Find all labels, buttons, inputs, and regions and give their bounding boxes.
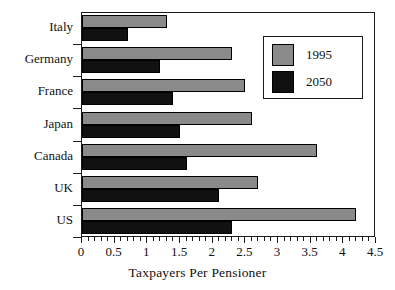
x-axis-major-tick	[81, 237, 82, 243]
x-axis-major-tick	[114, 237, 115, 243]
y-axis-tick	[73, 44, 81, 45]
bar	[82, 189, 219, 202]
bar	[82, 221, 232, 234]
bar	[82, 176, 258, 189]
x-axis-title: Taxpayers Per Pensioner	[0, 265, 395, 281]
x-axis-minor-tick	[101, 237, 102, 241]
bar	[82, 79, 245, 92]
x-axis-minor-tick	[107, 237, 108, 241]
x-axis-tick-label: 2	[208, 244, 215, 260]
y-axis-tick	[73, 76, 81, 77]
x-axis-minor-tick	[172, 237, 173, 241]
x-axis-minor-tick	[238, 237, 239, 241]
bar	[82, 125, 180, 138]
x-axis-minor-tick	[231, 237, 232, 241]
x-axis-major-tick	[375, 237, 376, 243]
x-axis-major-tick	[310, 237, 311, 243]
x-axis-minor-tick	[225, 237, 226, 241]
x-axis-minor-tick	[329, 237, 330, 241]
x-axis-tick-label: 2.5	[236, 244, 252, 260]
x-axis-minor-tick	[166, 237, 167, 241]
y-axis-label-us: US	[56, 212, 73, 228]
x-axis-tick-label: 1	[143, 244, 150, 260]
x-axis-major-tick	[244, 237, 245, 243]
x-axis-tick-label: 4	[339, 244, 346, 260]
y-axis-label-italy: Italy	[49, 19, 73, 35]
bar	[82, 92, 173, 105]
bar	[82, 208, 356, 221]
x-axis-minor-tick	[349, 237, 350, 241]
x-axis-minor-tick	[362, 237, 363, 241]
y-axis-label-japan: Japan	[43, 116, 73, 132]
x-axis-minor-tick	[251, 237, 252, 241]
bar	[82, 60, 160, 73]
legend: 19952050	[263, 36, 363, 99]
x-axis-minor-tick	[323, 237, 324, 241]
x-axis-minor-tick	[336, 237, 337, 241]
x-axis-tick-label: 1.5	[171, 244, 187, 260]
y-axis-tick	[73, 108, 81, 109]
bar	[82, 112, 252, 125]
bar	[82, 28, 128, 41]
x-axis-minor-tick	[297, 237, 298, 241]
x-axis-minor-tick	[199, 237, 200, 241]
legend-item-2050: 2050	[272, 70, 332, 94]
bar-chart: ItalyGermanyFranceJapanCanadaUKUS 00.511…	[0, 0, 395, 290]
x-axis-tick-label: 3	[274, 244, 281, 260]
y-axis-tick	[73, 205, 81, 206]
x-axis-minor-tick	[257, 237, 258, 241]
x-axis-minor-tick	[355, 237, 356, 241]
bar	[82, 157, 187, 170]
x-axis-minor-tick	[290, 237, 291, 241]
x-axis-minor-tick	[368, 237, 369, 241]
x-axis-minor-tick	[88, 237, 89, 241]
legend-label: 1995	[306, 47, 332, 63]
x-axis-minor-tick	[133, 237, 134, 241]
x-axis-minor-tick	[316, 237, 317, 241]
y-axis-category-labels: ItalyGermanyFranceJapanCanadaUKUS	[0, 12, 81, 237]
x-axis-minor-tick	[127, 237, 128, 241]
y-axis-tick	[73, 141, 81, 142]
y-axis-label-france: France	[38, 83, 73, 99]
x-axis-minor-tick	[264, 237, 265, 241]
x-axis-minor-tick	[186, 237, 187, 241]
bar	[82, 47, 232, 60]
x-axis-minor-tick	[153, 237, 154, 241]
y-axis-label-canada: Canada	[34, 148, 73, 164]
x-axis-tick-label: 4.5	[367, 244, 383, 260]
x-axis-minor-tick	[270, 237, 271, 241]
legend-item-1995: 1995	[272, 43, 332, 67]
y-axis-tick	[73, 173, 81, 174]
x-axis-minor-tick	[218, 237, 219, 241]
x-axis-minor-tick	[94, 237, 95, 241]
x-axis-major-tick	[146, 237, 147, 243]
y-axis-tick	[73, 237, 81, 238]
x-axis-minor-tick	[284, 237, 285, 241]
x-axis-major-tick	[342, 237, 343, 243]
x-axis-tick-label: 3.5	[302, 244, 318, 260]
legend-swatch-2050	[272, 71, 294, 93]
x-axis-minor-tick	[159, 237, 160, 241]
legend-label: 2050	[306, 74, 332, 90]
x-axis-minor-tick	[303, 237, 304, 241]
x-axis-minor-tick	[140, 237, 141, 241]
x-axis-minor-tick	[120, 237, 121, 241]
x-axis-minor-tick	[192, 237, 193, 241]
bar	[82, 15, 167, 28]
x-axis-tick-label: 0.5	[106, 244, 122, 260]
y-axis-label-germany: Germany	[25, 51, 73, 67]
bar	[82, 144, 317, 157]
x-axis-minor-tick	[205, 237, 206, 241]
x-axis-major-tick	[277, 237, 278, 243]
y-axis-label-uk: UK	[54, 180, 73, 196]
x-axis-tick-label: 0	[78, 244, 85, 260]
x-axis-major-tick	[179, 237, 180, 243]
legend-swatch-1995	[272, 44, 294, 66]
x-axis-major-tick	[212, 237, 213, 243]
